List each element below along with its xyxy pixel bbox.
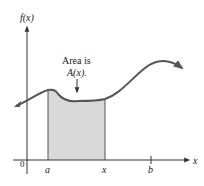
annotation-line-1: Area is (62, 55, 91, 66)
area-function-diagram: f(x) x 0 a x b Area is A(x). (0, 0, 204, 186)
tick-label-a: a (45, 164, 50, 175)
y-axis-label: f(x) (20, 12, 35, 24)
annotation-line-2: A(x). (66, 67, 87, 79)
tick-label-b: b (148, 164, 153, 175)
curve-left-arrow-icon (14, 101, 21, 107)
origin-label: 0 (20, 159, 25, 169)
x-axis-label: x (192, 155, 198, 166)
tick-label-x: x (101, 164, 107, 175)
function-curve (16, 61, 182, 106)
